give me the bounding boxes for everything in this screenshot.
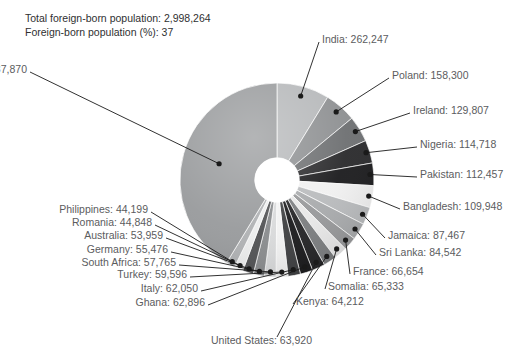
callout-label: Nigeria: 114,718 <box>420 138 496 150</box>
leader-line <box>30 72 219 164</box>
leader-line <box>369 196 400 209</box>
donut-hole <box>255 158 299 202</box>
leader-dot <box>343 237 348 242</box>
leader-dot <box>324 254 329 259</box>
callout-label: Somalia: 65,333 <box>328 280 404 292</box>
callout-label: Jamaica: 87,467 <box>388 229 465 241</box>
callout-label: South Africa: 57,765 <box>81 256 176 268</box>
callout-label: Ghana: 62,896 <box>136 296 205 308</box>
leader-dot <box>246 266 251 271</box>
leader-dot <box>353 129 358 134</box>
leader-line <box>366 147 417 153</box>
callout-label: Other countries: 1,237,870 <box>0 63 27 75</box>
leader-dot <box>367 172 372 177</box>
leader-dot <box>314 260 319 265</box>
callout-label: Italy: 62,050 <box>141 282 198 294</box>
leader-dot <box>279 269 284 274</box>
leader-line <box>355 113 410 132</box>
callout-label: Poland: 158,300 <box>392 69 468 81</box>
leader-dot <box>268 269 273 274</box>
leader-line <box>370 174 417 177</box>
callout-label: Kenya: 64,212 <box>296 295 364 307</box>
leader-line <box>355 229 376 255</box>
leader-dot <box>360 212 365 217</box>
leader-dot <box>216 161 221 166</box>
callout-label: Ireland: 129,807 <box>413 104 489 116</box>
leader-dot <box>366 194 371 199</box>
callout-label: Turkey: 59,596 <box>117 268 187 280</box>
leader-dot <box>352 226 357 231</box>
callout-label: Pakistan: 112,457 <box>420 168 503 180</box>
leader-line <box>336 78 389 112</box>
callout-label: Philippines: 44,199 <box>59 203 148 215</box>
callout-label: India: 262,247 <box>322 33 389 45</box>
leader-dot <box>257 269 262 274</box>
leader-dot <box>302 264 307 269</box>
leader-dot <box>237 263 242 268</box>
leader-dot <box>291 267 296 272</box>
callout-label: Sri Lanka: 84,542 <box>379 246 461 258</box>
chart-page: Total foreign-born population: 2,998,264… <box>0 0 523 359</box>
callout-label: France: 66,654 <box>353 265 424 277</box>
leader-line <box>301 42 319 96</box>
leader-dot <box>363 150 368 155</box>
leader-line <box>363 214 385 238</box>
callout-label: Romania: 44,848 <box>72 216 152 228</box>
leader-dot <box>298 93 303 98</box>
leader-dot <box>334 246 339 251</box>
callout-label: Germany: 55,476 <box>87 243 168 255</box>
leader-dot <box>230 259 235 264</box>
leader-dot <box>334 109 339 114</box>
callout-label: United States: 63,920 <box>0 334 523 346</box>
callout-label: Bangladesh: 109,948 <box>403 200 502 212</box>
callout-label: Australia: 53,959 <box>84 229 163 241</box>
